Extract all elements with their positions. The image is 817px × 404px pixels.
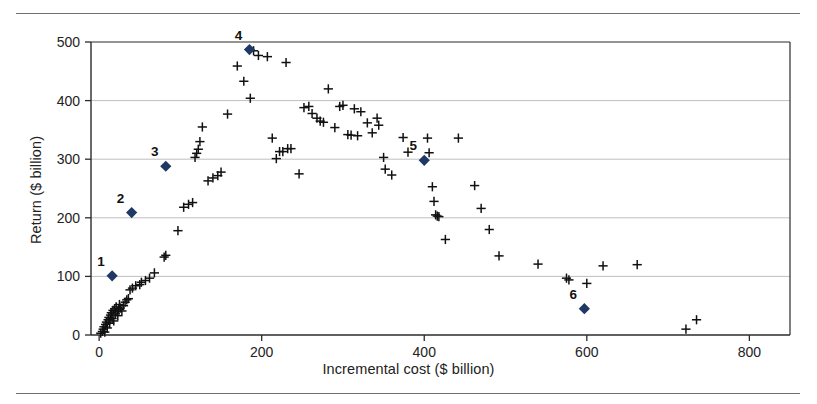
data-point-label-5: 5 — [409, 138, 417, 153]
figure-container: 01002003004005000200400600800123456 Incr… — [0, 0, 817, 404]
data-point-label-3: 3 — [151, 144, 159, 159]
x-tick-label-200: 200 — [250, 344, 273, 360]
data-point-label-4: 4 — [235, 28, 243, 43]
y-tick-label-400: 400 — [57, 93, 80, 109]
data-point-label-2: 2 — [117, 191, 125, 206]
data-point-label-1: 1 — [97, 254, 105, 269]
data-point-label-6: 6 — [570, 287, 578, 302]
x-tick-label-400: 400 — [413, 344, 436, 360]
x-tick-label-0: 0 — [95, 344, 103, 360]
y-tick-label-100: 100 — [57, 268, 80, 284]
y-tick-label-0: 0 — [72, 327, 80, 343]
y-axis-title: Return ($ billion) — [28, 90, 44, 290]
plot-background — [91, 42, 790, 335]
y-tick-label-300: 300 — [57, 151, 80, 167]
y-tick-label-500: 500 — [57, 34, 80, 50]
x-tick-label-800: 800 — [738, 344, 761, 360]
x-axis-title: Incremental cost ($ billion) — [0, 361, 817, 377]
x-tick-label-600: 600 — [575, 344, 598, 360]
y-tick-label-200: 200 — [57, 210, 80, 226]
